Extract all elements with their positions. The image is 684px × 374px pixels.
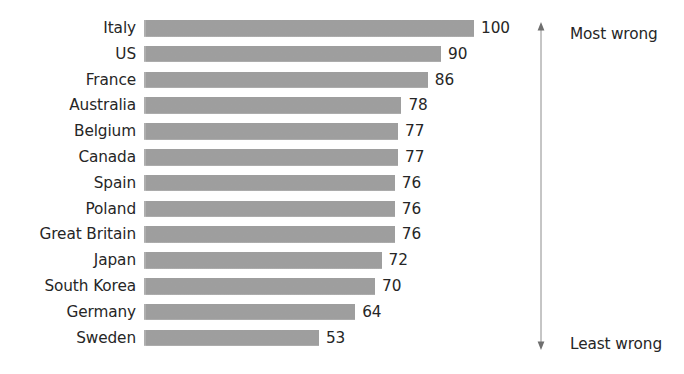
category-label: Canada <box>0 149 136 166</box>
bar <box>144 72 428 89</box>
axis-arrow-icon <box>533 22 549 350</box>
bar-row: Belgium77 <box>0 123 684 149</box>
bar-value-label: 86 <box>435 72 454 89</box>
bar-row: France86 <box>0 72 684 98</box>
bar <box>144 226 395 243</box>
bar-row: Great Britain76 <box>0 226 684 252</box>
bar-value-label: 78 <box>408 97 427 114</box>
category-label: Poland <box>0 201 136 218</box>
annotation-most-wrong: Most wrong <box>570 26 658 43</box>
bar <box>144 123 398 140</box>
bar <box>144 149 398 166</box>
bar <box>144 20 474 37</box>
category-label: Australia <box>0 97 136 114</box>
bar <box>144 252 382 269</box>
category-label: US <box>0 46 136 63</box>
bar-value-label: 64 <box>362 304 381 321</box>
bar <box>144 175 395 192</box>
bar-value-label: 76 <box>402 226 421 243</box>
category-label: South Korea <box>0 278 136 295</box>
category-label: France <box>0 72 136 89</box>
bar-row: Japan72 <box>0 252 684 278</box>
category-label: Great Britain <box>0 226 136 243</box>
bar-row: Australia78 <box>0 97 684 123</box>
bar-value-label: 77 <box>405 123 424 140</box>
bar <box>144 46 441 63</box>
category-label: Italy <box>0 20 136 37</box>
bar-value-label: 72 <box>389 252 408 269</box>
bar-row: Canada77 <box>0 149 684 175</box>
bar <box>144 304 355 321</box>
bar <box>144 330 319 347</box>
category-label: Belgium <box>0 123 136 140</box>
bar-value-label: 100 <box>481 20 510 37</box>
category-label: Spain <box>0 175 136 192</box>
bar-row: Spain76 <box>0 175 684 201</box>
bar-value-label: 76 <box>402 175 421 192</box>
category-label: Japan <box>0 252 136 269</box>
category-label: Germany <box>0 304 136 321</box>
bar-value-label: 70 <box>382 278 401 295</box>
annotation-least-wrong: Least wrong <box>570 336 662 353</box>
category-label: Sweden <box>0 330 136 347</box>
bar-value-label: 76 <box>402 201 421 218</box>
bar-row: Germany64 <box>0 304 684 330</box>
bar-row: US90 <box>0 46 684 72</box>
bar-row: South Korea70 <box>0 278 684 304</box>
bar-value-label: 53 <box>326 330 345 347</box>
bar <box>144 97 401 114</box>
bar-value-label: 77 <box>405 149 424 166</box>
bar-row: Poland76 <box>0 201 684 227</box>
bar <box>144 201 395 218</box>
bar-chart: Italy100US90France86Australia78Belgium77… <box>0 0 684 374</box>
bar-value-label: 90 <box>448 46 467 63</box>
bar <box>144 278 375 295</box>
